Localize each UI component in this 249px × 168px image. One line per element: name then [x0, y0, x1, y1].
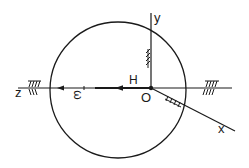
omega-arrow-icon: [57, 86, 64, 91]
angular-momentum-label: H: [129, 74, 138, 86]
diagram-canvas: z y x O H ω: [0, 0, 249, 168]
y-axis-label: y: [154, 11, 161, 24]
x-axis-label: x: [218, 122, 225, 135]
diagram-svg: [0, 0, 249, 168]
origin-label: O: [141, 91, 151, 104]
z-axis-label: z: [15, 86, 22, 99]
y-axis-hatch-icon: [146, 49, 150, 68]
angular-velocity-label: ω: [72, 90, 84, 99]
h-arrow-icon: [115, 85, 123, 90]
